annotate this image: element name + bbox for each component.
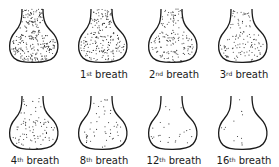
gas-particles (221, 99, 243, 145)
label-ordinal: rd (226, 70, 232, 77)
gas-particles (151, 106, 193, 143)
label-breath-12: 12th breath (139, 155, 209, 167)
flask-shape-initial (0, 0, 70, 70)
label-ordinal: st (86, 70, 91, 77)
flask-shape-breath-12 (139, 87, 209, 157)
flask-shape-breath-4 (0, 87, 70, 157)
label-text: breath (165, 155, 201, 166)
label-breath-4: 4th breath (0, 155, 70, 167)
panel-breath-3: 3rd breath (209, 0, 279, 84)
label-text: breath (235, 155, 271, 166)
flask-outline (149, 96, 197, 149)
panel-initial (0, 0, 70, 84)
gas-particles (80, 9, 125, 62)
panel-breath-16: 16th breath (209, 87, 279, 167)
label-breath-16: 16th breath (209, 155, 279, 167)
flask-shape-breath-3 (209, 0, 279, 70)
label-breath-8: 8th breath (69, 155, 139, 167)
label-number: 12 (147, 155, 160, 166)
gas-particles (220, 10, 264, 60)
gas-particles (13, 98, 55, 149)
label-text: breath (23, 155, 59, 166)
label-number: 16 (217, 155, 230, 166)
panel-breath-8: 8th breath (69, 87, 139, 167)
label-text: breath (163, 69, 199, 80)
panel-breath-4: 4th breath (0, 87, 70, 167)
label-text: breath (92, 69, 128, 80)
label-breath-3: 3rd breath (209, 69, 279, 81)
flask-shape-breath-2 (139, 0, 209, 70)
label-breath-1: 1st breath (69, 69, 139, 81)
panel-breath-2: 2nd breath (139, 0, 209, 84)
flask-outline (79, 96, 127, 149)
label-ordinal: nd (155, 70, 163, 77)
label-text: breath (92, 155, 128, 166)
flask-shape-breath-16 (209, 87, 279, 157)
flask-outline (219, 96, 267, 149)
panel-breath-1: 1st breath (69, 0, 139, 84)
label-breath-2: 2nd breath (139, 69, 209, 81)
label-ordinal: th (86, 156, 92, 163)
flask-shape-breath-8 (69, 87, 139, 157)
label-ordinal: th (159, 156, 165, 163)
label-ordinal: th (17, 156, 23, 163)
label-ordinal: th (229, 156, 235, 163)
gas-particles (11, 9, 55, 63)
flask-outline (10, 9, 58, 62)
flask-shape-breath-1 (69, 0, 139, 70)
flask-outline (10, 96, 58, 149)
gas-particles (151, 9, 194, 63)
panel-breath-12: 12th breath (139, 87, 209, 167)
label-text: breath (232, 69, 268, 80)
